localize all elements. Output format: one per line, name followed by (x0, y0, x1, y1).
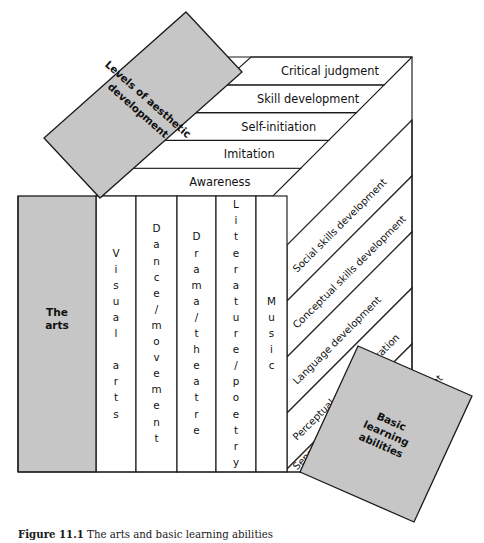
art-form-label-char: t (234, 230, 238, 242)
art-form-label-char: v (153, 351, 159, 363)
art-form-label-char: e (233, 408, 239, 420)
figure-caption: Figure 11.1 The arts and basic learning … (18, 528, 468, 540)
art-form-label-char: e (153, 367, 159, 379)
aesthetic-level-label: Imitation (224, 147, 275, 161)
art-form-label-char: a (193, 375, 199, 387)
art-form-column: Drama/theatre (177, 196, 216, 472)
art-form-label-char: r (114, 375, 119, 387)
art-form-label-char: V (112, 247, 120, 259)
art-form-label-char: n (153, 255, 160, 267)
art-form-label-char: r (194, 247, 199, 259)
art-form-label-char: e (153, 399, 159, 411)
art-form-label-char: r (234, 327, 239, 339)
art-form-label-char: D (152, 222, 160, 234)
art-form-label-char: e (233, 247, 239, 259)
aesthetic-level-label: Self-initiation (241, 120, 316, 134)
art-form-label-char: p (233, 375, 240, 387)
art-form-label-char: h (193, 343, 200, 355)
art-form-label-char: i (270, 343, 273, 355)
art-form-label-char: a (233, 279, 239, 291)
art-form-label-char: e (193, 359, 199, 371)
aesthetic-level-label: Critical judgment (281, 64, 380, 78)
art-form-label-char: a (193, 295, 199, 307)
art-form-column: Music (256, 196, 287, 472)
art-form-label-char: t (234, 295, 238, 307)
art-form-label-char: n (153, 416, 160, 428)
art-form-column: Literature/poetry (216, 196, 256, 472)
aesthetic-level-band: Critical judgment (220, 57, 412, 85)
art-form-label-char: u (113, 295, 120, 307)
art-form-label-char: m (191, 279, 201, 291)
art-form-label-char: a (113, 359, 119, 371)
art-form-label-char: o (233, 391, 239, 403)
art-form-column: Dance/movement (136, 196, 177, 472)
art-form-label-char: a (113, 311, 119, 323)
art-form-label-char: i (115, 263, 118, 275)
art-form-label-char: / (195, 311, 199, 323)
art-form-label-char: c (269, 359, 275, 371)
art-form-label-char: s (113, 279, 118, 291)
art-form-label-char: L (233, 198, 239, 210)
the-arts-block: The arts (18, 196, 96, 472)
art-form-label-char: a (153, 238, 159, 250)
art-form-label-char: t (114, 391, 118, 403)
art-form-columns-group: VisualartsDance/movementDrama/theatreLit… (96, 196, 287, 472)
art-form-label-char: e (153, 287, 159, 299)
art-form-label-char: t (154, 432, 158, 444)
art-form-label-char: s (113, 408, 118, 420)
the-arts-label-line1: The (46, 306, 68, 318)
art-form-label-char: s (269, 327, 274, 339)
art-form-label-char: c (154, 271, 160, 283)
art-form-label-char: o (153, 335, 159, 347)
art-form-label-char: e (193, 424, 199, 436)
figure-caption-label: Figure 11.1 (18, 528, 84, 540)
aesthetic-level-label: Awareness (189, 175, 250, 189)
the-arts-label-line2: arts (45, 319, 69, 331)
art-form-label-char: m (151, 319, 161, 331)
art-form-label-char: a (193, 263, 199, 275)
art-form-column: Visualarts (96, 196, 136, 472)
art-form-label-char: t (194, 391, 198, 403)
art-form-label-char: l (115, 327, 118, 339)
art-form-label-char: t (194, 327, 198, 339)
art-form-label-char: u (268, 311, 275, 323)
art-form-label-char: m (151, 383, 161, 395)
figure-caption-text: The arts and basic learning abilities (87, 529, 273, 540)
art-form-label-char: M (267, 295, 276, 307)
art-form-label-char: i (235, 214, 238, 226)
art-form-label-char: t (234, 424, 238, 436)
aesthetic-level-label: Skill development (257, 92, 360, 106)
art-form-label-char: / (234, 359, 238, 371)
art-form-label-char: e (233, 343, 239, 355)
art-form-label-char: / (155, 303, 159, 315)
art-form-label-char: u (233, 311, 240, 323)
art-form-label-char: y (233, 456, 239, 468)
art-form-label-char: D (192, 230, 200, 242)
art-form-label-char: r (234, 263, 239, 275)
art-form-label-char: r (234, 440, 239, 452)
figure-diagram: AwarenessImitationSelf-initiationSkill d… (0, 0, 484, 543)
art-form-label-char: r (194, 408, 199, 420)
